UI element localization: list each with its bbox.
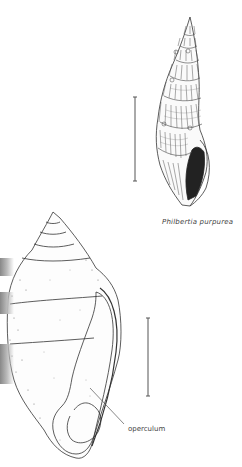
page-edge-shadow xyxy=(0,258,14,276)
page-edge-shadow xyxy=(0,344,14,384)
bottom-shell xyxy=(7,212,121,458)
operculum-label: operculum xyxy=(128,425,165,433)
philbertia-shell xyxy=(156,17,209,206)
philbertia-shell-illustration xyxy=(0,0,242,467)
species-caption: Philbertia purpurea xyxy=(162,218,233,226)
page-edge-shadow xyxy=(0,292,14,314)
scale-bar-top xyxy=(133,97,137,181)
scale-bar-bottom xyxy=(146,318,150,396)
